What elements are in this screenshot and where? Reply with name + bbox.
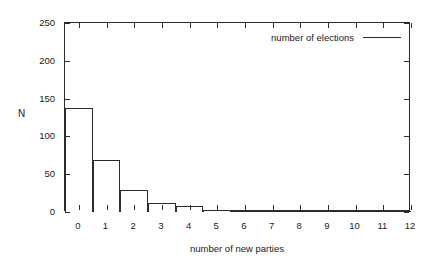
- x-tick: [162, 23, 163, 28]
- y-tick-label: 250: [0, 17, 55, 28]
- x-tick: [300, 23, 301, 28]
- x-tick: [411, 205, 412, 210]
- x-tick-label: 3: [158, 220, 163, 231]
- x-tick: [273, 205, 274, 210]
- x-tick: [383, 205, 384, 210]
- y-tick: [404, 212, 409, 213]
- x-tick-label: 5: [214, 220, 219, 231]
- x-tick: [273, 23, 274, 28]
- chart-figure: N number of elections 050100150200250 01…: [0, 0, 431, 268]
- x-tick: [162, 205, 163, 210]
- x-tick: [134, 23, 135, 28]
- x-tick: [190, 23, 191, 28]
- y-tick: [65, 212, 70, 213]
- y-tick: [65, 136, 70, 137]
- y-tick-label: 150: [0, 92, 55, 103]
- x-tick: [328, 205, 329, 210]
- y-axis-title: N: [18, 108, 25, 120]
- y-tick-label: 200: [0, 54, 55, 65]
- x-tick-label: 8: [297, 220, 302, 231]
- legend-line-swatch: [363, 37, 401, 38]
- x-tick-label: 9: [324, 220, 329, 231]
- x-tick: [411, 23, 412, 28]
- x-tick: [134, 205, 135, 210]
- x-tick: [245, 23, 246, 28]
- x-tick: [79, 205, 80, 210]
- y-tick: [404, 136, 409, 137]
- x-axis-title: number of new parties: [64, 243, 410, 254]
- x-tick: [107, 205, 108, 210]
- x-tick: [383, 23, 384, 28]
- bar: [259, 211, 287, 212]
- y-tick: [404, 99, 409, 100]
- x-tick: [356, 205, 357, 210]
- bar: [203, 210, 231, 212]
- y-tick: [404, 23, 409, 24]
- x-tick-label: 0: [75, 220, 80, 231]
- bar: [369, 211, 397, 212]
- x-tick-label: 7: [269, 220, 274, 231]
- bar: [231, 211, 259, 212]
- y-tick: [404, 61, 409, 62]
- y-tick: [65, 61, 70, 62]
- plot-area: number of elections: [64, 22, 410, 211]
- x-tick-label: 1: [103, 220, 108, 231]
- legend-label: number of elections: [271, 32, 354, 43]
- x-tick: [245, 205, 246, 210]
- bar: [314, 211, 342, 212]
- x-tick: [190, 205, 191, 210]
- x-tick-label: 12: [405, 220, 416, 231]
- y-tick-label: 0: [0, 206, 55, 217]
- bar: [65, 108, 93, 212]
- bar: [286, 211, 314, 212]
- plot-inner: number of elections: [65, 23, 409, 210]
- x-tick-label: 4: [186, 220, 191, 231]
- y-tick: [65, 174, 70, 175]
- chart-legend: number of elections: [271, 32, 401, 43]
- y-tick: [404, 174, 409, 175]
- x-tick: [217, 23, 218, 28]
- x-tick-label: 6: [241, 220, 246, 231]
- y-tick: [65, 99, 70, 100]
- x-tick: [356, 23, 357, 28]
- y-tick-label: 100: [0, 130, 55, 141]
- bar: [342, 211, 370, 212]
- x-tick: [217, 205, 218, 210]
- x-tick: [300, 205, 301, 210]
- x-tick: [328, 23, 329, 28]
- x-tick: [107, 23, 108, 28]
- x-tick-label: 10: [349, 220, 360, 231]
- x-tick: [79, 23, 80, 28]
- y-tick-label: 50: [0, 168, 55, 179]
- x-tick-label: 11: [377, 220, 387, 231]
- x-tick-label: 2: [131, 220, 136, 231]
- y-tick: [65, 23, 70, 24]
